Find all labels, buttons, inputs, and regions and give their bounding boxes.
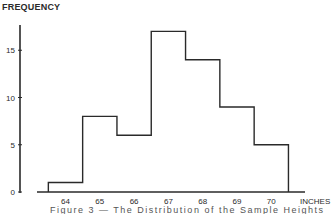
histogram-bar	[254, 145, 288, 192]
y-tick-label: 0	[11, 188, 16, 197]
y-tick-label: 15	[6, 46, 15, 55]
y-tick-label: 10	[6, 94, 15, 103]
histogram-bar	[83, 116, 117, 192]
histogram-bar	[220, 107, 254, 192]
figure-caption: Figure 3 — The Distribution of the Sampl…	[50, 205, 324, 214]
y-axis-title: FREQUENCY	[2, 2, 60, 12]
y-tick-label: 5	[11, 141, 16, 150]
histogram-bar	[151, 31, 185, 192]
histogram-chart: FREQUENCY 05101564656667686970INCHES Fig…	[0, 0, 332, 214]
plot-area: 05101564656667686970INCHES	[0, 0, 332, 214]
histogram-bar	[48, 183, 82, 192]
histogram-bar	[186, 60, 220, 192]
histogram-bar	[117, 135, 151, 192]
